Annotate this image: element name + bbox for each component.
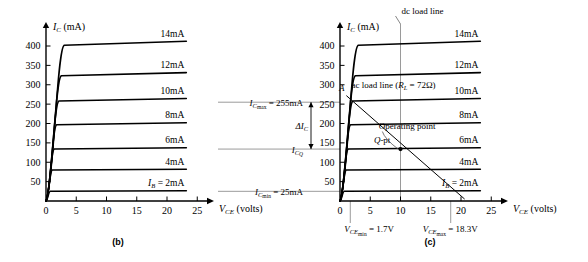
curve-label-2mA: IB = 2mA xyxy=(147,178,184,189)
y-tick-label: 300 xyxy=(320,79,335,90)
panel-b: 501001502002503003504000510152025IC (mA)… xyxy=(26,21,263,247)
y-tick-group: 50100150200250300350400 xyxy=(26,40,51,187)
y-tick-label: 150 xyxy=(320,137,335,148)
y-tick-label: 300 xyxy=(26,79,41,90)
x-tick-label: 10 xyxy=(396,205,406,216)
curve-label-6mA: 6mA xyxy=(459,135,478,145)
panel-caption-b: (b) xyxy=(112,237,124,247)
y-tick-label: 350 xyxy=(26,60,41,71)
x-tick-label: 25 xyxy=(192,205,202,216)
ic-annotations: ΔICICmax = 255mAICQICmin = 25mA xyxy=(249,98,314,200)
y-tick-label: 400 xyxy=(26,40,41,51)
x-tick-label: 20 xyxy=(162,205,172,216)
ic-min-label: ICmin = 25mA xyxy=(254,187,303,200)
y-tick-label: 250 xyxy=(26,99,41,110)
x-tick-label: 10 xyxy=(102,205,112,216)
x-tick-label: 5 xyxy=(368,205,373,216)
characteristic-curves: 14mA12mA10mA8mA6mA4mAIB = 2mA xyxy=(340,29,480,201)
x-tick-label: 25 xyxy=(486,205,496,216)
q-point-marker xyxy=(398,147,402,151)
q-point-label: Q-pt xyxy=(374,135,391,145)
delta-ic-label: ΔIC xyxy=(294,121,308,132)
vce-annotations: VCEmin = 1.7VVCEmax = 18.3V xyxy=(344,224,478,237)
curve-label-8mA: 8mA xyxy=(165,110,184,120)
x-tick-label: 20 xyxy=(456,205,466,216)
y-axis-title: IC (mA) xyxy=(52,21,85,34)
x-axis-title: VCE (volts) xyxy=(513,203,557,216)
x-tick-label: 15 xyxy=(426,205,436,216)
x-tick-group: 0510152025 xyxy=(338,197,497,217)
y-tick-group: 50100150200250300350400 xyxy=(320,40,345,187)
transistor-characteristic-curves-figure: 501001502002503003504000510152025IC (mA)… xyxy=(0,0,588,262)
point-a-label: A xyxy=(338,83,345,93)
x-axis-arrow xyxy=(501,198,508,204)
y-tick-label: 50 xyxy=(31,176,41,187)
curve-label-12mA: 12mA xyxy=(455,60,479,70)
curve-label-4mA: 4mA xyxy=(459,157,478,167)
ic-max-label: ICmax = 255mA xyxy=(249,98,304,111)
y-tick-label: 350 xyxy=(320,60,335,71)
figure-svg: 501001502002503003504000510152025IC (mA)… xyxy=(0,0,588,262)
y-axis-arrow xyxy=(43,22,49,28)
curve-ib-2mA xyxy=(46,191,186,201)
x-tick-label: 5 xyxy=(74,205,79,216)
dc-load-line-leader xyxy=(396,16,401,24)
panel-caption-c: (c) xyxy=(425,237,436,247)
curve-label-14mA: 14mA xyxy=(161,29,185,39)
axes xyxy=(43,22,214,204)
curve-label-6mA: 6mA xyxy=(165,135,184,145)
curve-label-10mA: 10mA xyxy=(455,86,479,96)
x-tick-label: 0 xyxy=(338,205,343,216)
operating-point-label: Operating point xyxy=(379,121,436,131)
curve-label-10mA: 10mA xyxy=(161,86,185,96)
delta-ic-arrow-head-bottom xyxy=(308,144,313,149)
panel-c: 501001502002503003504000510152025IC (mA)… xyxy=(218,6,557,247)
y-tick-label: 100 xyxy=(26,157,41,168)
y-tick-label: 50 xyxy=(325,176,335,187)
y-tick-label: 100 xyxy=(320,157,335,168)
x-tick-label: 15 xyxy=(132,205,142,216)
y-tick-label: 250 xyxy=(320,99,335,110)
curve-label-14mA: 14mA xyxy=(455,29,479,39)
y-axis-arrow xyxy=(337,22,343,28)
curve-label-8mA: 8mA xyxy=(459,110,478,120)
ic-q-label: ICQ xyxy=(291,145,303,158)
vce-min-label: VCEmin = 1.7V xyxy=(344,224,394,237)
x-axis-arrow xyxy=(207,198,214,204)
x-axis-title: VCE (volts) xyxy=(219,203,263,216)
x-tick-group: 0510152025 xyxy=(44,197,203,217)
dc-load-line-label: dc load line xyxy=(402,6,444,16)
x-tick-label: 0 xyxy=(44,205,49,216)
curve-label-12mA: 12mA xyxy=(161,60,185,70)
curve-label-4mA: 4mA xyxy=(165,157,184,167)
characteristic-curves: 14mA12mA10mA8mA6mA4mAIB = 2mA xyxy=(46,29,186,201)
y-tick-label: 200 xyxy=(320,118,335,129)
curve-ib-2mA xyxy=(340,191,480,201)
y-tick-label: 400 xyxy=(320,40,335,51)
delta-ic-arrow-head-top xyxy=(308,102,313,107)
y-tick-label: 150 xyxy=(26,137,41,148)
y-tick-label: 200 xyxy=(26,118,41,129)
vce-max-label: VCEmax = 18.3V xyxy=(423,224,479,237)
axes xyxy=(337,22,508,204)
ac-load-line-label: ac load line (RL = 72Ω) xyxy=(351,80,435,91)
y-axis-title: IC (mA) xyxy=(346,21,379,34)
